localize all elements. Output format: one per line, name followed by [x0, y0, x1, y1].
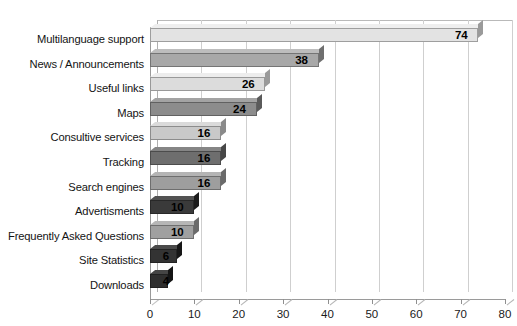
bar-value-label: 38	[287, 53, 317, 67]
x-tick-label: 40	[308, 308, 348, 320]
gridline-depth-connector	[507, 299, 515, 305]
category-label: Advertisments	[75, 204, 144, 218]
x-tick-mark	[505, 299, 506, 304]
x-tick-mark	[328, 299, 329, 304]
bar-value-label: 26	[233, 77, 263, 91]
category-label: Consultive services	[50, 130, 144, 144]
x-tick-label: 60	[396, 308, 436, 320]
plot-area: 74382624161616101064 01020304050607080	[150, 8, 517, 308]
bar-end-cap	[221, 143, 226, 161]
category-axis: Multilanguage supportNews / Announcement…	[0, 14, 150, 286]
bar-end-cap	[257, 94, 262, 112]
x-tick-label: 80	[485, 308, 517, 320]
x-tick-mark	[194, 299, 195, 304]
category-label: Search engines	[68, 180, 144, 194]
x-tick-mark	[150, 299, 151, 304]
x-tick-label: 70	[441, 308, 481, 320]
x-tick-mark	[416, 299, 417, 304]
x-tick-mark	[372, 299, 373, 304]
bar-value-label: 6	[151, 249, 181, 263]
bar-front-face	[150, 28, 478, 42]
category-label: News / Announcements	[29, 57, 144, 71]
x-tick-label: 0	[130, 308, 170, 320]
bar-value-label: 16	[189, 126, 219, 140]
category-label: Downloads	[90, 278, 144, 292]
gridline-depth-connector	[462, 299, 470, 305]
category-label: Maps	[117, 106, 144, 120]
bar-end-cap	[221, 118, 226, 136]
gridline-depth-connector	[196, 299, 204, 305]
x-tick-mark	[283, 299, 284, 304]
bar	[150, 28, 478, 42]
bar-value-label: 4	[151, 274, 181, 288]
bar-value-label: 16	[189, 176, 219, 190]
x-tick-label: 50	[352, 308, 392, 320]
category-label: Useful links	[89, 81, 144, 95]
bar-end-cap	[221, 168, 226, 186]
x-tick-label: 10	[174, 308, 214, 320]
gridline	[379, 20, 380, 292]
gridline	[423, 20, 424, 292]
bar-value-label: 10	[162, 200, 192, 214]
bar-chart: Multilanguage supportNews / Announcement…	[0, 0, 517, 326]
bar-end-cap	[265, 69, 270, 87]
category-label: Multilanguage support	[37, 32, 144, 46]
bar-end-cap	[478, 20, 483, 38]
bar-value-label: 24	[225, 102, 255, 116]
bar-end-cap	[194, 192, 199, 210]
gridline-depth-connector	[240, 299, 248, 305]
bar-value-label: 16	[189, 151, 219, 165]
gridline-depth-connector	[418, 299, 426, 305]
gridline	[512, 20, 513, 292]
gridline-depth-connector	[329, 299, 337, 305]
bar-end-cap	[194, 217, 199, 235]
gridline	[335, 20, 336, 292]
x-tick-mark	[239, 299, 240, 304]
category-label: Site Statistics	[79, 253, 144, 267]
x-tick-label: 30	[263, 308, 303, 320]
category-label: Tracking	[103, 155, 144, 169]
gridline	[468, 20, 469, 292]
bar-end-cap	[319, 45, 324, 63]
x-tick-label: 20	[219, 308, 259, 320]
plot-depth-bottom-edge	[152, 299, 160, 305]
gridline-depth-connector	[373, 299, 381, 305]
x-tick-mark	[461, 299, 462, 304]
gridline-depth-connector	[285, 299, 293, 305]
category-label: Frequently Asked Questions	[8, 229, 144, 243]
bar-value-label: 10	[162, 225, 192, 239]
bar-value-label: 74	[446, 28, 476, 42]
